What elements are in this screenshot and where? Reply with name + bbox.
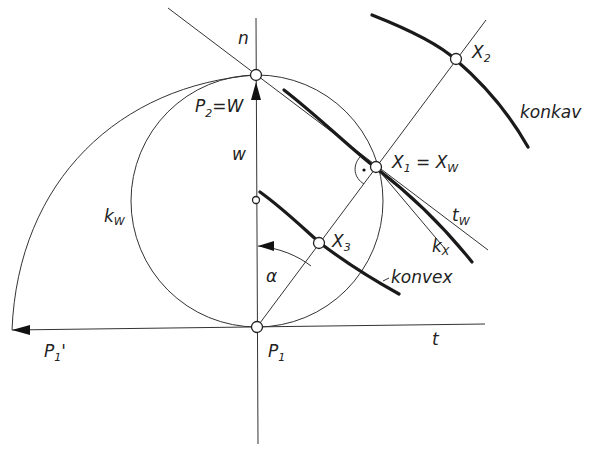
arrow-w-icon [251,82,261,100]
label-alpha: α [266,266,277,286]
curvature-diagram: n P2=W w kW α P1 P1' t X1 = XW X2 X3 tW … [0,0,596,452]
point-p2 [251,70,262,81]
label-w: w [232,144,246,164]
label-p2: P2=W [195,96,245,120]
arrow-p1prime-icon [12,325,30,335]
label-p1prime: P1' [44,341,66,364]
curve-konkav [372,15,528,147]
label-tw: tW [452,205,471,228]
label-x2: X2 [471,42,491,65]
alpha-arc [258,246,311,266]
point-center [253,197,260,204]
label-p1: P1 [268,341,285,364]
label-konvex: konvex [391,267,454,287]
point-x3 [314,238,325,249]
arrow-alpha-icon [258,241,274,251]
label-n: n [238,28,249,48]
point-x2 [451,54,462,65]
curve-konvex [260,192,399,294]
label-t: t [432,329,440,349]
label-kx: kX [432,236,450,258]
point-p1 [252,322,263,333]
konvex-leader [383,278,389,281]
right-angle-dot [362,168,365,171]
label-x3: X3 [331,231,351,254]
point-x1 [371,162,382,173]
label-kw: kW [104,206,126,228]
normal-axis-n [256,18,258,444]
label-x1: X1 = XW [391,152,459,175]
label-konkav: konkav [520,102,582,122]
